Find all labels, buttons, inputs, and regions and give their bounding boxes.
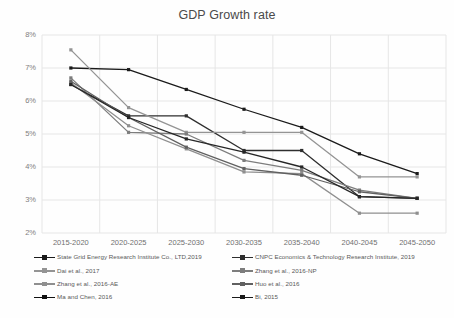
series-data-marker bbox=[300, 131, 303, 134]
series-data-marker bbox=[300, 126, 303, 129]
legend-color-swatch-icon bbox=[232, 253, 253, 262]
x-axis-tick-label: 2030-2035 bbox=[214, 238, 274, 247]
legend-item[interactable]: State Grid Energy Research Institute Co.… bbox=[34, 251, 239, 264]
legend-swatch-marker bbox=[42, 255, 47, 260]
legend-swatch-marker bbox=[240, 268, 245, 273]
series-data-marker bbox=[185, 88, 188, 91]
gridlines bbox=[42, 35, 446, 233]
legend-swatch-marker bbox=[240, 282, 245, 287]
series-data-marker bbox=[358, 152, 361, 155]
series-data-marker bbox=[127, 124, 130, 127]
y-axis-tick-label: 8% bbox=[14, 30, 36, 39]
series-line bbox=[69, 80, 418, 200]
legend-color-swatch-icon bbox=[34, 253, 55, 262]
series-data-marker bbox=[127, 131, 130, 134]
series-data-marker bbox=[185, 146, 188, 149]
series-data-marker bbox=[242, 131, 245, 134]
legend-item-label: CNPC Economics & Technology Research Ins… bbox=[255, 254, 415, 260]
series-line bbox=[69, 76, 418, 200]
x-axis-tick-label: 2025-2030 bbox=[156, 238, 216, 247]
series-data-marker bbox=[127, 106, 130, 109]
series-data-marker bbox=[185, 132, 188, 135]
series-data-marker bbox=[300, 149, 303, 152]
series-data-marker bbox=[242, 167, 245, 170]
series-data-marker bbox=[416, 197, 419, 200]
y-axis-tick-label: 6% bbox=[14, 96, 36, 105]
legend-color-swatch-icon bbox=[232, 266, 253, 275]
legend-item-label: Dai et al., 2017 bbox=[57, 268, 99, 274]
legend-column-right: CNPC Economics & Technology Research Ins… bbox=[232, 251, 437, 304]
legend-item-label: Huo et al., 2016 bbox=[255, 281, 300, 287]
legend-item-label: Bi, 2015 bbox=[255, 294, 278, 300]
series-polyline bbox=[71, 78, 417, 198]
series-data-marker bbox=[69, 48, 72, 51]
x-axis-tick-label: 2045-2050 bbox=[387, 238, 447, 247]
legend-swatch-marker bbox=[42, 282, 47, 287]
series-data-marker bbox=[358, 212, 361, 215]
series-data-marker bbox=[127, 116, 130, 119]
legend-color-swatch-icon bbox=[34, 266, 55, 275]
series-layer bbox=[69, 48, 418, 215]
legend-item[interactable]: Ma and Chen, 2016 bbox=[34, 291, 239, 304]
legend-item-label: Zhang et al., 2016-NP bbox=[255, 268, 317, 274]
series-data-marker bbox=[416, 212, 419, 215]
series-data-marker bbox=[300, 169, 303, 172]
legend-column-left: State Grid Energy Research Institute Co.… bbox=[34, 251, 239, 304]
legend-color-swatch-icon bbox=[232, 293, 253, 302]
series-data-marker bbox=[185, 114, 188, 117]
series-polyline bbox=[71, 81, 417, 198]
x-axis-tick-label: 2015-2020 bbox=[41, 238, 101, 247]
y-axis-tick-label: 2% bbox=[14, 228, 36, 237]
legend-color-swatch-icon bbox=[34, 279, 55, 288]
x-axis-tick-label: 2040-2045 bbox=[329, 238, 389, 247]
legend-item-label: Ma and Chen, 2016 bbox=[57, 294, 112, 300]
gdp-growth-rate-chart: GDP Growth rate 2%3%4%5%6%7%8% 2015-2020… bbox=[0, 0, 454, 318]
series-data-marker bbox=[185, 137, 188, 140]
series-data-marker bbox=[358, 195, 361, 198]
series-data-marker bbox=[242, 159, 245, 162]
legend-swatch-marker bbox=[240, 295, 245, 300]
legend-item[interactable]: Huo et al., 2016 bbox=[232, 277, 437, 290]
y-axis-tick-label: 3% bbox=[14, 195, 36, 204]
legend-item[interactable]: Zhang et al., 2016-AE bbox=[34, 277, 239, 290]
series-data-marker bbox=[300, 174, 303, 177]
series-data-marker bbox=[242, 151, 245, 154]
series-data-marker bbox=[300, 165, 303, 168]
legend-color-swatch-icon bbox=[34, 293, 55, 302]
legend-swatch-marker bbox=[42, 268, 47, 273]
x-axis-tick-label: 2020-2025 bbox=[99, 238, 159, 247]
legend-color-swatch-icon bbox=[232, 279, 253, 288]
series-data-marker bbox=[416, 172, 419, 175]
series-data-marker bbox=[358, 190, 361, 193]
chart-legend: State Grid Energy Research Institute Co.… bbox=[34, 251, 446, 309]
series-data-marker bbox=[127, 68, 130, 71]
legend-item[interactable]: Zhang et al., 2016-NP bbox=[232, 264, 437, 277]
legend-item-label: Zhang et al., 2016-AE bbox=[57, 281, 118, 287]
series-data-marker bbox=[69, 83, 72, 86]
y-axis-tick-label: 7% bbox=[14, 63, 36, 72]
y-axis-tick-label: 4% bbox=[14, 162, 36, 171]
series-data-marker bbox=[69, 80, 72, 83]
legend-item-label: State Grid Energy Research Institute Co.… bbox=[57, 254, 202, 260]
series-data-marker bbox=[242, 170, 245, 173]
series-data-marker bbox=[69, 66, 72, 69]
x-axis-tick-label: 2035-2040 bbox=[272, 238, 332, 247]
series-data-marker bbox=[242, 108, 245, 111]
legend-item[interactable]: CNPC Economics & Technology Research Ins… bbox=[232, 251, 437, 264]
series-data-marker bbox=[416, 175, 419, 178]
legend-swatch-marker bbox=[240, 255, 245, 260]
legend-swatch-marker bbox=[42, 295, 47, 300]
y-axis-tick-label: 5% bbox=[14, 129, 36, 138]
series-data-marker bbox=[358, 175, 361, 178]
legend-item[interactable]: Dai et al., 2017 bbox=[34, 264, 239, 277]
legend-item[interactable]: Bi, 2015 bbox=[232, 291, 437, 304]
series-data-marker bbox=[69, 76, 72, 79]
